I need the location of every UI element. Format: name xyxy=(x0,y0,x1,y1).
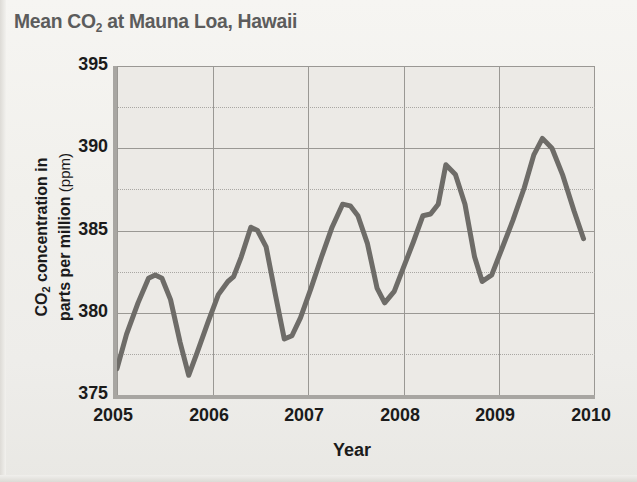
y-axis-title-line1-rest: concentration in xyxy=(33,157,50,286)
x-axis-tick-label: 2008 xyxy=(362,404,437,426)
y-axis-tick-label: 380 xyxy=(65,300,108,322)
co2-line xyxy=(117,138,584,375)
y-axis-title-line1-main: CO xyxy=(33,293,50,317)
x-axis-tick-label: 2006 xyxy=(171,404,246,426)
x-axis-title: Year xyxy=(113,440,591,461)
scan-edge-left xyxy=(0,0,6,482)
y-axis-tick-label: 390 xyxy=(65,135,108,157)
plot-inner xyxy=(117,66,595,395)
x-axis-tick-label: 2010 xyxy=(553,404,628,426)
x-axis-tick-label: 2007 xyxy=(267,404,342,426)
y-axis-title-subscript: 2 xyxy=(40,286,52,292)
y-axis-tick-label: 385 xyxy=(65,218,108,240)
x-axis-tick-label: 2005 xyxy=(75,404,150,426)
chart-title-rest: at Mauna Loa, Hawaii xyxy=(102,9,297,32)
x-axis-tick-label: 2009 xyxy=(458,404,533,426)
data-series-line xyxy=(117,66,595,395)
y-axis-tick-label: 375 xyxy=(65,382,108,404)
plot-area xyxy=(113,66,595,399)
y-axis-tick-label: 395 xyxy=(65,53,108,75)
